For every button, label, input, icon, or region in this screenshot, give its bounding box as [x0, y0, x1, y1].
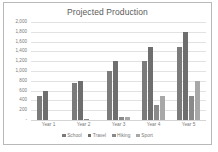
y-axis-tick-label: 800: [19, 79, 27, 84]
bar[interactable]: [148, 47, 153, 121]
bar[interactable]: [72, 83, 77, 120]
bar-series-layer: [31, 22, 206, 120]
bar[interactable]: [142, 61, 147, 120]
legend-label: Sport: [141, 133, 152, 138]
legend-label: School: [67, 133, 82, 138]
chart-legend: SchoolTravelHikingSport: [4, 133, 211, 138]
legend-swatch-icon: [88, 134, 92, 138]
legend-item[interactable]: School: [62, 133, 82, 138]
bar-cluster: [68, 22, 100, 120]
bar[interactable]: [125, 117, 130, 120]
legend-item[interactable]: Hiking: [112, 133, 130, 138]
y-axis-tick-label: -: [25, 118, 27, 123]
x-axis-tick-label: Year 4: [138, 122, 170, 127]
bar[interactable]: [43, 91, 48, 120]
legend-swatch-icon: [62, 134, 66, 138]
y-axis-tick-label: 200: [19, 108, 27, 113]
legend-item[interactable]: Sport: [136, 133, 152, 138]
bar[interactable]: [177, 47, 182, 121]
x-axis-tick-label: Year 3: [103, 122, 135, 127]
bar[interactable]: [189, 96, 194, 121]
bar[interactable]: [160, 96, 165, 121]
y-axis-tick-label: 2,000: [16, 20, 28, 25]
x-axis-tick-label: Year 1: [33, 122, 65, 127]
bar-cluster: [103, 22, 135, 120]
bar[interactable]: [154, 105, 159, 120]
bar[interactable]: [183, 32, 188, 120]
legend-swatch-icon: [112, 134, 116, 138]
bar[interactable]: [107, 71, 112, 120]
bar-cluster: [33, 22, 65, 120]
bar[interactable]: [113, 61, 118, 120]
bar[interactable]: [119, 117, 124, 120]
gridline: [31, 120, 206, 121]
legend-label: Hiking: [117, 133, 130, 138]
bar-cluster: [138, 22, 170, 120]
plot-area: [31, 22, 206, 120]
y-axis: 2,0001,8001,6001,4001,2001,0008006004002…: [4, 22, 29, 120]
x-axis-tick-label: Year 2: [68, 122, 100, 127]
y-axis-tick-label: 400: [19, 98, 27, 103]
y-axis-tick-label: 1,200: [16, 59, 28, 64]
bar[interactable]: [78, 81, 83, 120]
legend-item[interactable]: Travel: [88, 133, 106, 138]
chart-container[interactable]: Projected Production 2,0001,8001,6001,40…: [3, 2, 212, 145]
chart-title: Projected Production: [4, 7, 211, 17]
legend-label: Travel: [93, 133, 106, 138]
bar[interactable]: [84, 119, 89, 120]
bar-cluster: [173, 22, 205, 120]
bar[interactable]: [195, 81, 200, 120]
y-axis-tick-label: 1,600: [16, 39, 28, 44]
legend-swatch-icon: [136, 134, 140, 138]
y-axis-tick-label: 1,800: [16, 30, 28, 35]
y-axis-tick-label: 1,400: [16, 49, 28, 54]
x-axis-tick-label: Year 5: [173, 122, 205, 127]
y-axis-tick-label: 600: [19, 88, 27, 93]
y-axis-tick-label: 1,000: [16, 69, 28, 74]
x-axis: Year 1Year 2Year 3Year 4Year 5: [31, 122, 206, 127]
bar[interactable]: [37, 96, 42, 121]
